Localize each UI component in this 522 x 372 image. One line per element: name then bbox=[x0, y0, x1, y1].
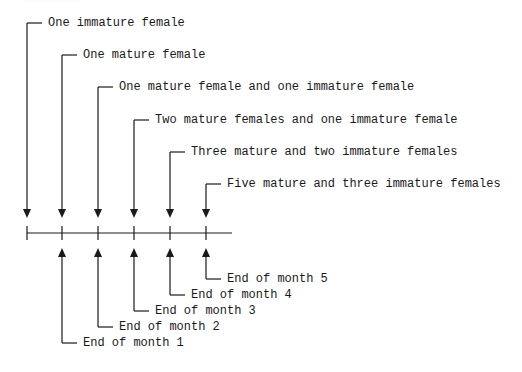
month-label-3: End of month 3 bbox=[155, 304, 256, 318]
arrow-down-icon bbox=[58, 209, 66, 218]
population-label-3: Two mature females and one immature fema… bbox=[155, 113, 457, 127]
arrow-up-icon bbox=[166, 248, 174, 257]
month-label-1: End of month 1 bbox=[83, 336, 184, 350]
population-label-2: One mature female and one immature femal… bbox=[119, 80, 414, 94]
diagram-canvas: One immature female One mature female On… bbox=[0, 0, 522, 372]
arrow-up-icon bbox=[94, 248, 102, 257]
month-label-5: End of month 5 bbox=[227, 272, 328, 286]
population-label-0: One immature female bbox=[48, 16, 185, 30]
arrow-down-icon bbox=[130, 209, 138, 218]
arrow-up-icon bbox=[130, 248, 138, 257]
arrow-down-icon bbox=[94, 209, 102, 218]
month-label-2: End of month 2 bbox=[119, 320, 220, 334]
population-label-1: One mature female bbox=[83, 48, 205, 62]
arrow-down-icon bbox=[23, 209, 31, 218]
arrow-down-icon bbox=[202, 209, 210, 218]
arrow-up-icon bbox=[202, 248, 210, 257]
arrow-up-icon bbox=[58, 248, 66, 257]
arrow-down-icon bbox=[166, 209, 174, 218]
population-label-5: Five mature and three immature females bbox=[227, 177, 501, 191]
timeline-axis bbox=[27, 226, 232, 240]
month-label-4: End of month 4 bbox=[191, 288, 292, 302]
population-label-4: Three mature and two immature females bbox=[191, 145, 457, 159]
